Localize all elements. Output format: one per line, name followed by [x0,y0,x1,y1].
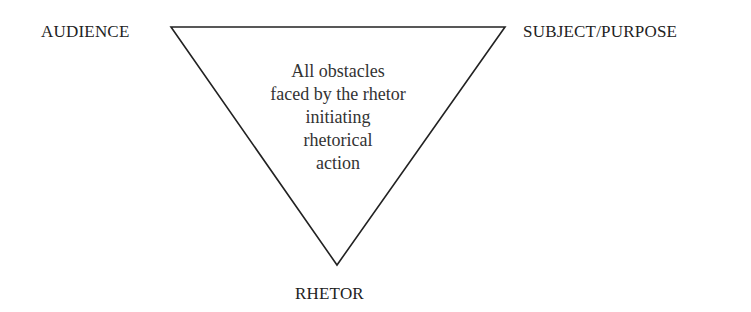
center-line: faced by the rhetor [258,83,418,106]
center-line: All obstacles [258,60,418,83]
rhetor-label: RHETOR [295,284,364,304]
audience-label: AUDIENCE [41,22,129,42]
subject-purpose-label: SUBJECT/PURPOSE [523,22,677,42]
center-description: All obstacles faced by the rhetor initia… [258,60,418,175]
center-line: rhetorical [258,129,418,152]
center-line: action [258,152,418,175]
center-line: initiating [258,106,418,129]
